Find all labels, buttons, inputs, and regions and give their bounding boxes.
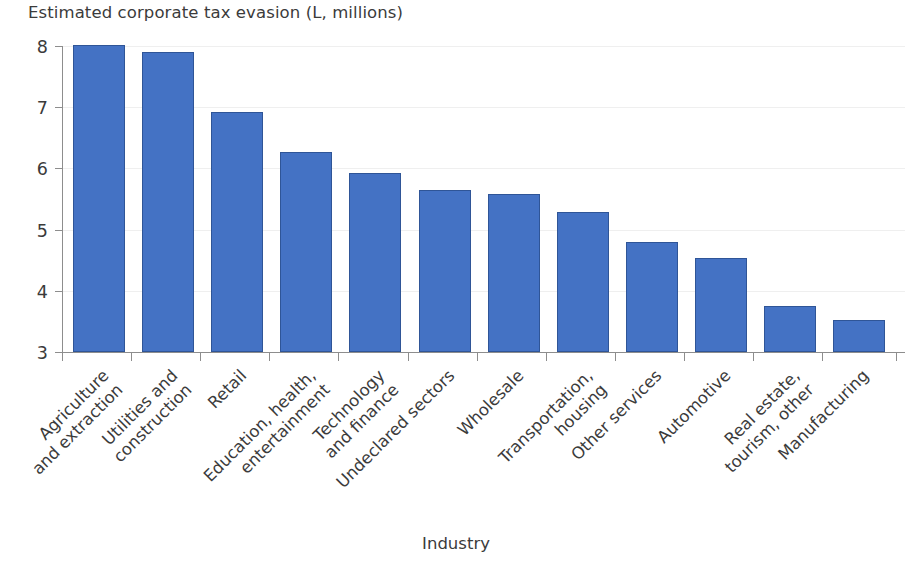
y-tick-label: 4 bbox=[18, 282, 48, 302]
x-tick-mark bbox=[477, 353, 478, 361]
bar bbox=[833, 320, 885, 352]
bar bbox=[764, 306, 816, 352]
bar bbox=[142, 52, 194, 352]
x-tick-mark bbox=[200, 353, 201, 361]
bar bbox=[349, 173, 401, 352]
bar bbox=[488, 194, 540, 352]
x-axis-title: Industry bbox=[0, 534, 912, 553]
y-tick-mark bbox=[55, 168, 63, 169]
x-tick-mark bbox=[546, 353, 547, 361]
x-tick-mark bbox=[822, 353, 823, 361]
chart-container: Estimated corporate tax evasion (L, mill… bbox=[0, 0, 912, 564]
x-tick-mark bbox=[269, 353, 270, 361]
x-tick-mark bbox=[615, 353, 616, 361]
bar bbox=[280, 152, 332, 352]
x-tick-mark bbox=[408, 353, 409, 361]
y-tick-mark bbox=[55, 46, 63, 47]
x-tick-mark bbox=[684, 353, 685, 361]
plot-area: 345678 Agriculture and extractionUtiliti… bbox=[0, 0, 912, 564]
bar bbox=[211, 112, 263, 352]
y-tick-mark bbox=[55, 230, 63, 231]
bar bbox=[73, 45, 125, 352]
x-tick-mark bbox=[338, 353, 339, 361]
y-axis-line bbox=[62, 46, 63, 353]
y-tick-label: 5 bbox=[18, 221, 48, 241]
x-tick-mark bbox=[896, 353, 897, 361]
x-axis-line bbox=[62, 352, 905, 353]
bar bbox=[557, 212, 609, 352]
y-tick-label: 6 bbox=[18, 159, 48, 179]
x-tick-mark bbox=[753, 353, 754, 361]
y-tick-mark bbox=[55, 291, 63, 292]
y-tick-label: 8 bbox=[18, 37, 48, 57]
y-tick-label: 3 bbox=[18, 343, 48, 363]
bar bbox=[419, 190, 471, 352]
y-tick-label: 7 bbox=[18, 98, 48, 118]
bar bbox=[626, 242, 678, 352]
x-tick-mark bbox=[131, 353, 132, 361]
x-tick-mark bbox=[62, 353, 63, 361]
bar bbox=[695, 258, 747, 352]
gridline bbox=[63, 46, 905, 47]
y-tick-mark bbox=[55, 107, 63, 108]
